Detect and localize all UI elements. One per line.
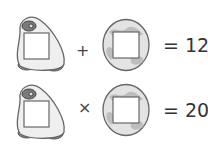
result-1: = 12 bbox=[163, 36, 208, 55]
planet-icon bbox=[101, 18, 151, 72]
answer-box-planet bbox=[113, 97, 139, 123]
planet-icon bbox=[101, 83, 151, 137]
equation-row-1: + = 12 bbox=[0, 0, 208, 73]
answer-box-penguin bbox=[24, 33, 49, 59]
multiply-operator: × bbox=[78, 100, 91, 116]
result-2: = 20 bbox=[163, 101, 208, 120]
equation-row-2: × = 20 bbox=[0, 73, 208, 146]
answer-box-penguin bbox=[24, 101, 49, 127]
answer-box-planet bbox=[113, 32, 139, 58]
plus-operator: + bbox=[76, 43, 89, 59]
penguin-icon bbox=[10, 12, 70, 73]
penguin-icon bbox=[10, 80, 70, 141]
